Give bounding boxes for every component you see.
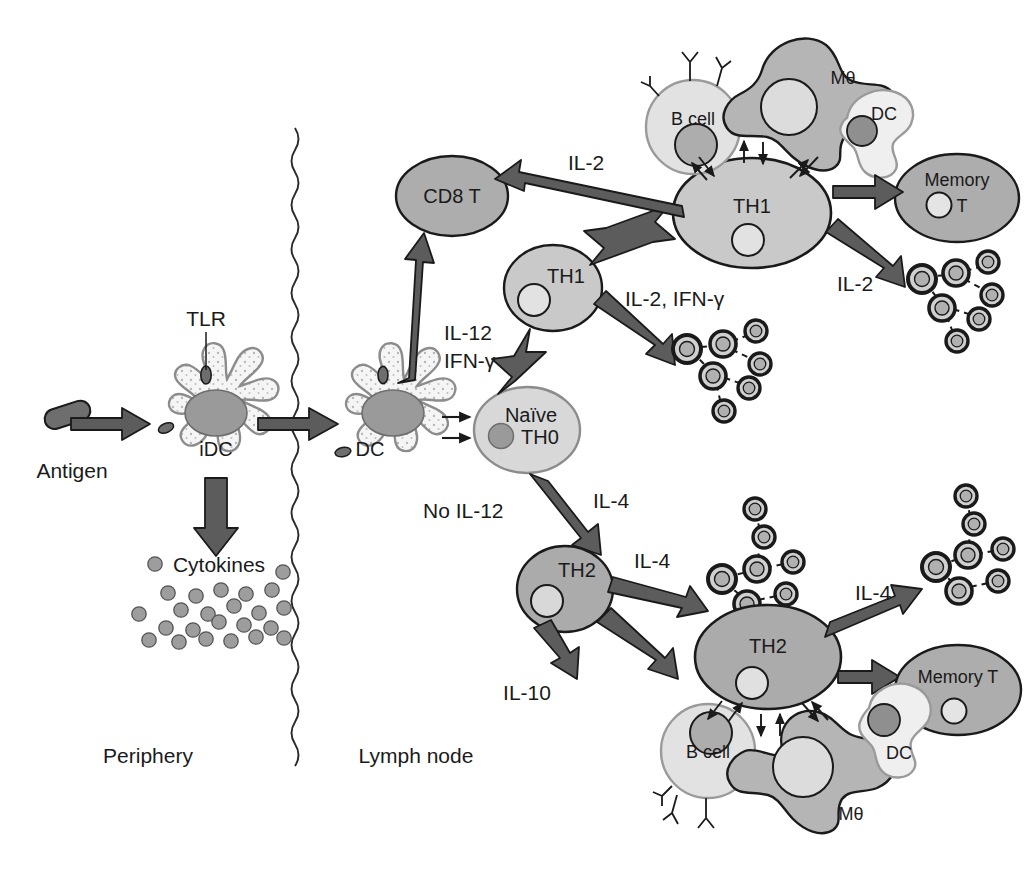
arrow-naive-to-th1	[492, 329, 546, 394]
clone-cluster-th1-large	[908, 251, 1003, 352]
b-cell-bottom-label: B cell	[686, 742, 730, 762]
clone-cluster-th2-large	[922, 485, 1014, 604]
immature-dendritic-cell	[157, 332, 279, 451]
il2-ifng-label: IL-2, IFN-γ	[625, 287, 725, 310]
th1-large-label: TH1	[733, 195, 771, 217]
th1-small-cell	[504, 245, 602, 331]
ifng-label: IFN-γ	[444, 349, 496, 372]
arrow-naive-to-th2	[530, 474, 601, 555]
macrophage-bottom-label: Mθ	[838, 804, 863, 824]
il4-upper-expansion-label: IL-4	[634, 549, 671, 572]
il2-expansion-label: IL-2	[837, 272, 873, 295]
lymph-node-dendritic-cell	[334, 343, 455, 458]
il4-lower-expansion-label: IL-4	[855, 581, 892, 604]
macrophage-top-label: Mθ	[830, 68, 855, 88]
il10-label: IL-10	[503, 681, 551, 704]
memory-t-bottom-label: Memory T	[918, 667, 999, 687]
arrow-idc-to-lymph-dc	[258, 408, 338, 440]
memory-t-top-label-line2: T	[957, 196, 968, 216]
no-il12-label: No IL-12	[423, 499, 504, 522]
antigen-label: Antigen	[36, 459, 107, 482]
naive-th0-label-line2: TH0	[521, 426, 559, 448]
memory-t-top-label-line1: Memory	[924, 170, 989, 190]
cd8-t-label: CD8 T	[423, 185, 480, 207]
periphery-lymphnode-divider	[292, 128, 299, 766]
dendritic-cell-top-label: DC	[871, 104, 897, 124]
arrow-th1large-to-memory	[833, 175, 903, 209]
diagram-canvas: TLR Antigen iDC Cytokines	[0, 0, 1033, 870]
th1-small-label: TH1	[547, 265, 585, 287]
tlr-label: TLR	[186, 307, 226, 330]
il2-cd8-label: IL-2	[568, 151, 604, 174]
clone-cluster-th2-small	[708, 498, 804, 617]
th2-large-label: TH2	[749, 635, 787, 657]
arrow-th1small-to-th1large	[584, 205, 675, 265]
cytokines-label: Cytokines	[173, 553, 265, 576]
lymph-node-label: Lymph node	[359, 744, 474, 767]
periphery-label: Periphery	[103, 744, 193, 767]
th2-small-label: TH2	[558, 559, 596, 581]
il12-label: IL-12	[444, 321, 492, 344]
idc-label: iDC	[199, 438, 232, 460]
arrow-th2small-to-th2large	[597, 608, 678, 679]
clone-cluster-th1-small	[673, 320, 771, 422]
naive-th0-label-line1: Naïve	[505, 404, 557, 426]
dendritic-cell-bottom-label: DC	[886, 743, 912, 763]
immunology-pathway-diagram: TLR Antigen iDC Cytokines	[0, 0, 1033, 870]
b-cell-top-label: B cell	[671, 109, 715, 129]
arrow-idc-to-cytokines	[194, 478, 238, 556]
arrow-th2small-to-clones	[608, 577, 708, 617]
th2-large-cell	[695, 605, 841, 709]
il4-branch-label: IL-4	[593, 489, 630, 512]
dc-lymph-label: DC	[356, 438, 385, 460]
